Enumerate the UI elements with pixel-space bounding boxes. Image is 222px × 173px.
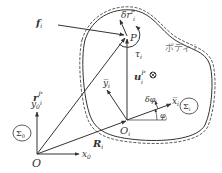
sigmai-label: Σi	[183, 102, 191, 112]
Oi-label: Oi	[120, 125, 130, 137]
drP-virtual-displacement	[120, 20, 127, 36]
phi-label: φi	[160, 111, 168, 121]
rP-subscript: i	[40, 99, 42, 106]
uP-subscript: i	[141, 78, 143, 85]
drP-subscript: i	[133, 15, 135, 22]
ybar-label: y̅i	[102, 78, 110, 89]
kinematics-diagram: O x0 y0 Σ0 Ri rP i Oi P uP i fi δrP i τi…	[0, 0, 222, 173]
x0-label: x0	[82, 149, 91, 160]
xbar-label: x̅i	[172, 96, 179, 107]
point-P-label: P	[129, 32, 137, 43]
fi-force-vector	[58, 25, 124, 35]
fi-label: fi	[35, 17, 42, 29]
origin-label: O	[32, 157, 41, 170]
deformed-body-outline	[80, 7, 215, 144]
phi-angle-arc	[155, 109, 157, 120]
body-outline	[83, 10, 212, 141]
center-cross-icon	[151, 73, 155, 77]
diagram-canvas: O x0 y0 Σ0 Ri rP i Oi P uP i fi δrP i τi…	[0, 0, 222, 173]
ybar-axis	[107, 90, 127, 120]
body-label: ボディ i	[165, 42, 196, 53]
Ri-label: Ri	[92, 138, 103, 150]
rP-vector	[37, 38, 125, 154]
tau-label: τi	[135, 49, 142, 60]
sigma0-label: Σ0	[16, 129, 25, 139]
dphi-label: δφi	[145, 95, 157, 105]
